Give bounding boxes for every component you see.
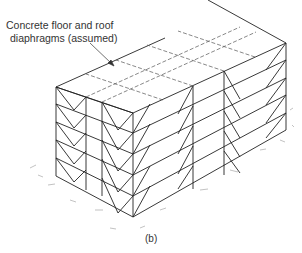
annotation-arrow: [90, 43, 114, 66]
roof-outline: [56, 0, 286, 113]
building-frame-drawing: [0, 0, 302, 253]
ground-texture: [30, 108, 294, 229]
figure-caption: (b): [145, 233, 157, 244]
